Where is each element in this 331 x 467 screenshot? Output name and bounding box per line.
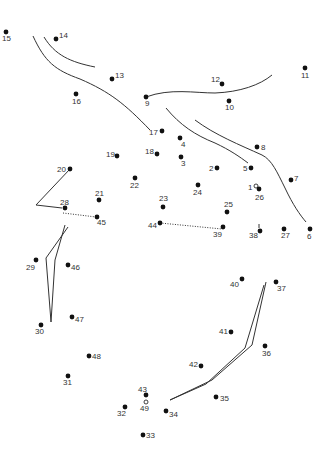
dot-11: 11 [301,66,310,80]
guide-stroke [33,36,150,130]
dot-27: 27 [281,227,290,240]
dot-34: 34 [164,409,179,419]
dot-35: 35 [214,394,230,403]
dot-number-label: 40 [230,280,239,289]
dot-marker [158,221,163,226]
dot-number-label: 26 [255,193,264,202]
dot-marker [161,205,166,210]
dotted-guide-stroke [160,223,222,229]
dot-marker [255,145,260,150]
dot-number-label: 12 [211,75,220,84]
dot-46: 46 [66,263,81,272]
dot-number-label: 49 [140,404,149,413]
dot-26: 26 [255,187,264,202]
dot-44: 44 [148,221,162,230]
dot-marker [74,92,79,97]
dot-number-label: 37 [277,284,286,293]
dot-42: 42 [189,360,203,369]
dot-19: 19 [106,150,119,159]
dotted-guide-strokes [63,213,222,229]
dot-number-label: 44 [148,221,157,230]
dot-number-label: 6 [307,232,312,241]
dot-number-label: 8 [261,143,266,152]
dot-marker [196,183,201,188]
dot-39: 39 [213,225,225,239]
dot-number-label: 35 [220,394,229,403]
dot-number-label: 27 [281,231,290,240]
dot-number-label: 46 [71,263,80,272]
guide-stroke [170,282,266,400]
dot-1: 1 [248,183,258,192]
dot-number-label: 41 [219,327,228,336]
dot-marker [110,77,115,82]
dot-marker [141,433,146,438]
dot-marker [66,263,71,268]
dot-10: 10 [225,99,234,112]
dot-number-label: 36 [262,349,271,358]
dot-number-label: 4 [181,140,186,149]
dot-marker [54,37,59,42]
dot-marker [249,166,254,171]
dot-marker [70,315,75,320]
dot-37: 37 [274,280,287,293]
dot-number-label: 18 [145,147,154,156]
dot-marker [229,330,234,335]
dot-15: 15 [2,30,11,43]
dot-4: 4 [178,136,186,149]
dot-number-label: 7 [294,174,299,183]
dot-marker [225,210,230,215]
dot-number-label: 21 [95,189,104,198]
dot-48: 48 [87,352,102,361]
dot-marker [68,167,73,172]
dot-number-label: 10 [225,103,234,112]
dot-marker [308,227,313,232]
dot-number-label: 23 [159,194,168,203]
guide-stroke [166,108,248,163]
dot-number-label: 43 [138,385,147,394]
dot-21: 21 [95,189,104,202]
dot-number-label: 9 [145,99,150,108]
dot-number-label: 3 [181,159,186,168]
guide-stroke [146,75,272,97]
dot-marker [160,129,165,134]
dot-32: 32 [117,405,127,418]
dot-24: 24 [193,183,202,197]
dot-41: 41 [219,327,233,336]
dot-number-label: 48 [92,352,101,361]
dot-13: 13 [110,71,125,81]
dot-number-label: 33 [146,431,155,440]
dot-marker [164,409,169,414]
dots-layer: 1234567891011121314151617181920212223242… [2,30,312,440]
dot-9: 9 [144,95,150,108]
dot-number-label: 17 [149,128,158,137]
dot-23: 23 [159,194,168,209]
dot-17: 17 [149,128,164,137]
dot-28: 28 [60,198,69,210]
dot-47: 47 [70,315,85,324]
dot-number-label: 22 [130,181,139,190]
dot-8: 8 [255,143,266,152]
dot-marker [115,154,120,159]
dot-number-label: 16 [72,97,81,106]
dot-7: 7 [289,174,299,183]
dot-18: 18 [145,147,159,156]
dot-number-label: 28 [60,198,69,207]
dot-number-label: 29 [26,263,35,272]
dot-22: 22 [130,176,139,190]
dot-number-label: 19 [106,150,115,159]
dot-33: 33 [141,431,156,440]
dot-marker [263,344,268,349]
dot-marker [303,66,308,71]
dot-31: 31 [63,374,72,387]
dot-marker [155,152,160,157]
dot-number-label: 32 [117,409,126,418]
dot-marker [289,178,294,183]
dot-number-label: 1 [248,183,253,192]
dot-marker [240,277,245,282]
dot-marker [214,395,219,400]
dot-number-label: 5 [243,164,248,173]
dot-6: 6 [307,227,312,241]
dot-marker [34,258,39,263]
dot-marker [220,82,225,87]
guide-stroke [46,225,68,322]
